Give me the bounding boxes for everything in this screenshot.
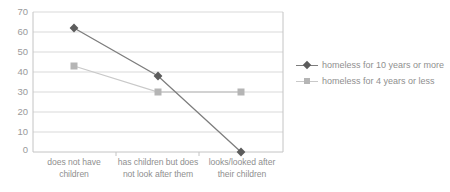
x-axis-category-label-line: their children xyxy=(200,169,284,181)
x-axis-category-label-line: children xyxy=(32,169,116,181)
data-point-marker xyxy=(70,24,79,33)
legend-item-homeless-4-years-or-less: homeless for 4 years or less xyxy=(296,74,448,88)
x-axis-category-label: looks/looked after their children xyxy=(200,157,284,180)
square-marker-icon xyxy=(304,78,310,84)
x-axis-category-label-line: has children but does xyxy=(113,157,203,169)
legend-item-label: homeless for 4 years or less xyxy=(318,75,435,87)
data-point-marker xyxy=(238,89,245,96)
chart-container: 70 60 50 40 30 20 10 0 xyxy=(0,0,450,192)
x-axis-category-label: has children but does not look after the… xyxy=(113,157,203,180)
x-axis-category-label: does not have children xyxy=(32,157,116,180)
x-axis-category-label-line: not look after them xyxy=(113,169,203,181)
legend-item-homeless-10-years-or-more: homeless for 10 years or more xyxy=(296,58,448,72)
data-point-marker xyxy=(155,89,162,96)
x-axis-category-label-line: looks/looked after xyxy=(200,157,284,169)
legend-marker-wrap xyxy=(296,75,318,87)
legend-marker-wrap xyxy=(296,59,318,71)
legend-item-label: homeless for 10 years or more xyxy=(318,59,444,71)
diamond-marker-icon xyxy=(303,61,311,69)
axis-lines xyxy=(33,12,283,156)
x-axis-category-label-line: does not have xyxy=(32,157,116,169)
chart-legend: homeless for 10 years or more homeless f… xyxy=(296,58,448,90)
data-point-marker xyxy=(71,63,78,70)
